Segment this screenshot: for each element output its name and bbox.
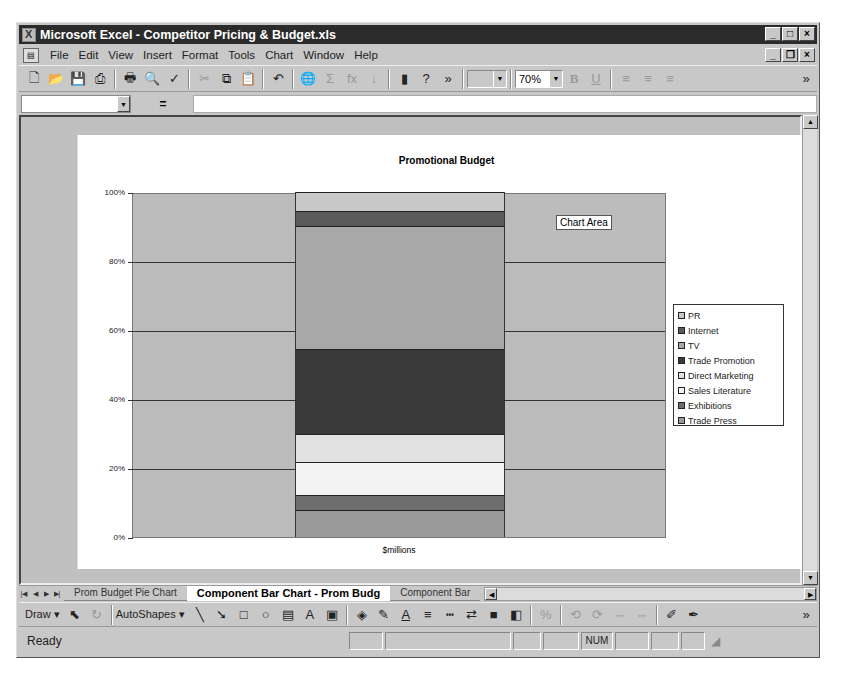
menu-edit[interactable]: Edit xyxy=(74,49,104,61)
bar-segment-pr[interactable] xyxy=(295,192,505,211)
menu-chart[interactable]: Chart xyxy=(260,49,298,61)
scroll-down-button[interactable]: ▼ xyxy=(803,571,818,585)
menu-file[interactable]: File xyxy=(45,49,74,61)
chart-area[interactable]: Promotional Budget 0%20%40%60%80%100% $m… xyxy=(77,135,815,569)
resize-grip-icon[interactable]: ◢ xyxy=(711,634,720,648)
chart-legend[interactable]: PRInternetTVTrade PromotionDirect Market… xyxy=(673,304,784,426)
pen-icon[interactable]: ✒ xyxy=(683,605,705,625)
tab-prom-budget-pie-chart[interactable]: Prom Budget Pie Chart xyxy=(64,586,187,601)
cut-icon[interactable]: ✂ xyxy=(193,69,215,89)
chevron-down-icon[interactable]: ▼ xyxy=(493,71,506,87)
textbox-icon[interactable]: ▤ xyxy=(277,605,299,625)
plot-area[interactable]: 0%20%40%60%80%100% xyxy=(132,193,666,538)
spelling-icon[interactable]: ✓ xyxy=(163,69,185,89)
line-color-icon[interactable]: ✎ xyxy=(373,605,395,625)
doc-close-button[interactable]: × xyxy=(799,48,815,62)
new-icon[interactable]: 🗋 xyxy=(23,69,45,89)
formula-input[interactable] xyxy=(193,95,817,113)
bar-segment-trade-promotion[interactable] xyxy=(295,349,505,434)
scroll-up-button[interactable]: ▲ xyxy=(803,115,818,129)
rotate-left-icon[interactable]: ⟲ xyxy=(565,605,587,625)
flip-vertical-icon[interactable]: ⇔ xyxy=(631,605,653,625)
legend-item-pr[interactable]: PR xyxy=(678,308,783,323)
bar-segment-tv[interactable] xyxy=(295,226,505,349)
help-icon[interactable]: ? xyxy=(415,69,437,89)
horizontal-scrollbar[interactable]: ◀ ▶ xyxy=(484,587,817,601)
toolbar-options-icon[interactable]: » xyxy=(437,69,459,89)
percent-icon[interactable]: % xyxy=(535,605,557,625)
tab-component-bar-chart-prom-budg[interactable]: Component Bar Chart - Prom Budg xyxy=(187,586,390,601)
rectangle-icon[interactable]: □ xyxy=(233,605,255,625)
legend-item-internet[interactable]: Internet xyxy=(678,323,783,338)
align-center-icon[interactable]: ≡ xyxy=(637,69,659,89)
oval-icon[interactable]: ○ xyxy=(255,605,277,625)
last-sheet-button[interactable]: ▶| xyxy=(52,590,62,598)
line-icon[interactable]: ╲ xyxy=(189,605,211,625)
save-icon[interactable]: 💾 xyxy=(67,69,89,89)
legend-item-exhibitions[interactable]: Exhibitions xyxy=(678,398,783,413)
edit-points-icon[interactable]: ✐ xyxy=(661,605,683,625)
font-combo[interactable]: ▼ xyxy=(467,70,507,88)
tab-component-bar[interactable]: Component Bar xyxy=(390,586,480,601)
menu-window[interactable]: Window xyxy=(298,49,349,61)
vertical-scrollbar[interactable]: ▲ ▼ xyxy=(802,115,817,585)
function-icon[interactable]: fx xyxy=(341,69,363,89)
free-rotate-icon[interactable]: ↻ xyxy=(86,605,108,625)
arrow-icon[interactable]: ➘ xyxy=(211,605,233,625)
chevron-down-icon[interactable]: ▼ xyxy=(549,71,562,87)
prev-sheet-button[interactable]: ◀ xyxy=(30,590,40,598)
hyperlink-icon[interactable]: 🌐 xyxy=(297,69,319,89)
copy-icon[interactable]: ⧉ xyxy=(215,69,237,89)
first-sheet-button[interactable]: |◀ xyxy=(19,590,29,598)
rotate-right-icon[interactable]: ⟳ xyxy=(587,605,609,625)
open-icon[interactable]: 📂 xyxy=(45,69,67,89)
font-color-icon[interactable]: A xyxy=(395,605,417,625)
chart-title[interactable]: Promotional Budget xyxy=(78,155,815,166)
chevron-down-icon[interactable]: ▼ xyxy=(117,96,130,112)
menu-tools[interactable]: Tools xyxy=(223,49,260,61)
menu-help[interactable]: Help xyxy=(349,49,383,61)
autosum-icon[interactable]: Σ xyxy=(319,69,341,89)
menu-view[interactable]: View xyxy=(103,49,138,61)
arrow-style-icon[interactable]: ⇄ xyxy=(461,605,483,625)
align-right-icon[interactable]: ≡ xyxy=(659,69,681,89)
bar-segment-direct-marketing[interactable] xyxy=(295,434,505,462)
chart-wizard-icon[interactable]: ▮ xyxy=(393,69,415,89)
legend-item-trade-press[interactable]: Trade Press xyxy=(678,413,783,428)
legend-item-tv[interactable]: TV xyxy=(678,338,783,353)
fill-color-icon[interactable]: ◈ xyxy=(351,605,373,625)
bar-segment-sales-literature[interactable] xyxy=(295,462,505,495)
line-style-icon[interactable]: ≡ xyxy=(417,605,439,625)
excel-app-icon[interactable] xyxy=(22,28,36,42)
shadow-icon[interactable]: ■ xyxy=(483,605,505,625)
permission-icon[interactable]: ⎙ xyxy=(89,69,111,89)
next-sheet-button[interactable]: ▶ xyxy=(41,590,51,598)
undo-icon[interactable]: ↶ xyxy=(267,69,289,89)
minimize-button[interactable]: _ xyxy=(765,27,781,41)
menu-insert[interactable]: Insert xyxy=(138,49,177,61)
menu-format[interactable]: Format xyxy=(177,49,223,61)
dash-style-icon[interactable]: ┅ xyxy=(439,605,461,625)
stacked-bar[interactable] xyxy=(295,194,505,537)
autoshapes-menu-button[interactable]: AutoShapes ▾ xyxy=(116,608,185,621)
underline-button[interactable]: U xyxy=(585,69,607,89)
close-button[interactable]: × xyxy=(799,27,815,41)
draw-menu-button[interactable]: Draw ▾ xyxy=(25,608,60,621)
name-box[interactable]: ▼ xyxy=(21,95,131,113)
bar-segment-exhibitions[interactable] xyxy=(295,495,505,510)
3d-icon[interactable]: ◧ xyxy=(505,605,527,625)
legend-item-trade-promotion[interactable]: Trade Promotion xyxy=(678,353,783,368)
document-icon[interactable]: ▤ xyxy=(23,48,39,63)
scroll-right-button[interactable]: ▶ xyxy=(804,588,816,600)
print-preview-icon[interactable]: 🔍 xyxy=(141,69,163,89)
legend-item-sales-literature[interactable]: Sales Literature xyxy=(678,383,783,398)
wordart-icon[interactable]: A xyxy=(299,605,321,625)
bold-button[interactable]: B xyxy=(563,69,585,89)
doc-restore-button[interactable]: ❐ xyxy=(782,48,798,62)
sort-icon[interactable]: ↓ xyxy=(363,69,385,89)
maximize-button[interactable]: □ xyxy=(782,27,798,41)
select-objects-icon[interactable]: ⬉ xyxy=(64,605,86,625)
bar-segment-internet[interactable] xyxy=(295,211,505,226)
toolbar-options-icon[interactable]: » xyxy=(795,69,817,89)
paste-icon[interactable]: 📋 xyxy=(237,69,259,89)
